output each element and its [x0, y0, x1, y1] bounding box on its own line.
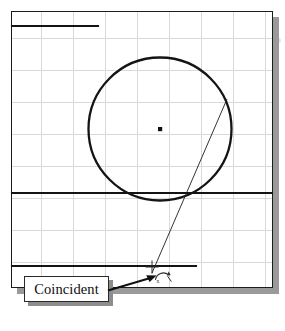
coincident-symbol-icon: x [156, 271, 172, 283]
svg-text:x: x [157, 278, 160, 284]
screenshot-root: x Coincident [0, 0, 285, 331]
circle-center-point[interactable] [158, 127, 162, 131]
coincident-callout-box[interactable]: Coincident [24, 276, 109, 302]
coincident-callout-label: Coincident [34, 282, 99, 297]
angled-construction-line[interactable] [152, 99, 227, 273]
